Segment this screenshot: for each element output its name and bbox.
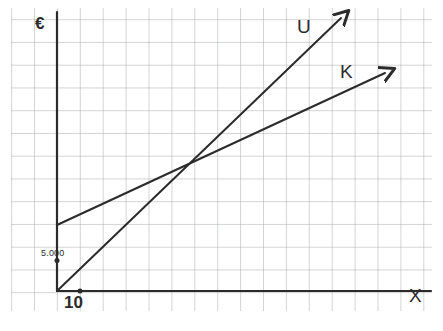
grid-lines [11, 8, 432, 311]
x-axis-symbol-label: X [409, 286, 422, 305]
series-label-u: U [297, 17, 311, 36]
x-axis-tick-label-10: 10 [64, 294, 83, 311]
chart-figure: € U K X 5.000 10 [0, 0, 443, 331]
series-label-k: K [340, 62, 353, 81]
chart-canvas [0, 0, 443, 331]
y-axis-unit-label: € [35, 15, 44, 32]
y-axis-tick-label-5000: 5.000 [41, 249, 65, 258]
